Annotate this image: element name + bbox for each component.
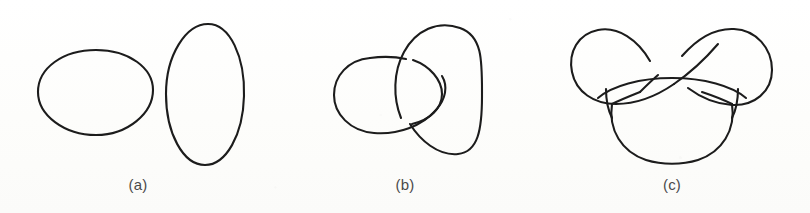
- panel-a-unlink: (a): [0, 0, 270, 213]
- trefoil-middle-sweep: [598, 78, 746, 98]
- hopf-link-diagram: [270, 0, 550, 176]
- unlink-right-loop: [166, 24, 244, 165]
- hopf-right-loop-upper-arc: [395, 25, 482, 154]
- hopf-right-loop-inner-arc: [412, 60, 442, 124]
- panel-label-c: (c): [612, 176, 732, 193]
- figure-root: (a) (b): [0, 0, 810, 213]
- trefoil-strand-under-top-left: [640, 75, 658, 92]
- panel-b-hopf-link: (b): [270, 0, 550, 213]
- unlink-left-loop: [38, 50, 153, 135]
- panel-label-a: (a): [78, 176, 198, 193]
- unlink-diagram: [0, 0, 270, 176]
- trefoil-knot-diagram: [550, 0, 810, 176]
- panel-c-trefoil-knot: (c): [550, 0, 810, 213]
- panel-label-b: (b): [345, 176, 465, 193]
- trefoil-bottom-lobe: [611, 104, 732, 164]
- trefoil-strand-over-top: [571, 29, 674, 104]
